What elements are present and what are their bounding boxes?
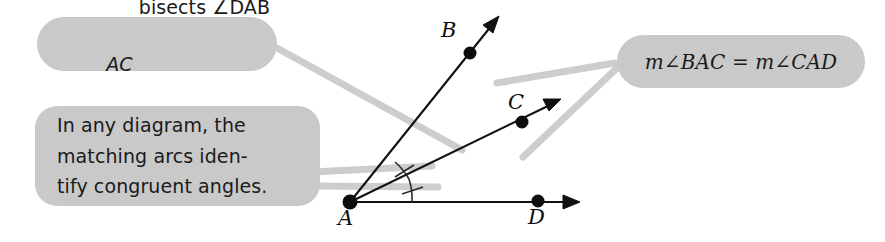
connector-equal-to-ray-ac bbox=[523, 68, 617, 157]
rays-group bbox=[350, 16, 580, 209]
ray-ac-arrowhead bbox=[543, 99, 561, 111]
point-c-dot bbox=[516, 116, 529, 129]
callout-angle-equality: m∠BAC = m∠CAD bbox=[617, 35, 865, 88]
figure-canvas: A B C D AC bisects ∠DAB In any diagram, … bbox=[0, 0, 885, 242]
point-label-d: D bbox=[528, 205, 545, 229]
point-b-dot bbox=[464, 47, 477, 60]
ray-ac-text: AC bbox=[106, 53, 132, 75]
ray-ad-arrowhead bbox=[563, 195, 580, 209]
connector-equal-to-ray-ab bbox=[497, 63, 615, 83]
ray-ab-arrowhead bbox=[483, 16, 499, 33]
callout-arcs-line-2: matching arcs iden- bbox=[57, 141, 298, 172]
callout-arcs-line-3: tify congruent angles. bbox=[57, 171, 298, 202]
callout-equal-text: m∠BAC = m∠CAD bbox=[645, 52, 837, 72]
connector-arcs-to-lower-tick bbox=[312, 186, 438, 187]
callout-bisects-text: bisects ∠DAB bbox=[133, 0, 270, 17]
callout-bisects-line: AC bisects ∠DAB bbox=[57, 0, 257, 93]
callout-bisects: AC bisects ∠DAB bbox=[37, 17, 277, 71]
point-label-a: A bbox=[338, 206, 353, 230]
callout-connectors bbox=[277, 48, 617, 187]
point-label-c: C bbox=[508, 90, 524, 114]
callout-matching-arcs: In any diagram, the matching arcs iden- … bbox=[35, 106, 320, 206]
point-label-b: B bbox=[441, 18, 456, 42]
ray-ac-notation: AC bbox=[57, 0, 133, 93]
callout-arcs-line-1: In any diagram, the bbox=[57, 110, 298, 141]
